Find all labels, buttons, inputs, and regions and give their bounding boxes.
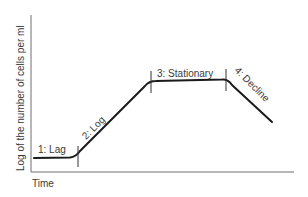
y-axis-title: Log of the number of cells per ml xyxy=(15,25,26,171)
x-axis-title: Time xyxy=(32,178,54,189)
phase-label-lag: 1: Lag xyxy=(38,144,66,155)
growth-curve xyxy=(34,79,272,158)
phase-label-decline: 4: Decline xyxy=(233,65,273,105)
phase-label-stationary: 3: Stationary xyxy=(157,68,213,79)
growth-curve-diagram: 1: Lag 2: Log 3: Stationary 4: Decline T… xyxy=(0,0,308,197)
